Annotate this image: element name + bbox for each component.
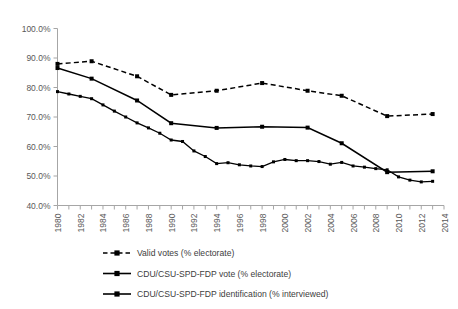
series-marker-2 xyxy=(340,161,343,164)
legend-marker-1 xyxy=(114,271,119,276)
legend-marker-2 xyxy=(114,291,119,296)
series-marker-2 xyxy=(329,163,332,166)
series-marker-2 xyxy=(181,140,184,143)
x-tick-label: 1982 xyxy=(76,213,86,232)
legend-label-2: CDU/CSU-SPD-FDP identification (% interv… xyxy=(137,289,328,299)
series-marker-0 xyxy=(215,89,219,93)
series-marker-2 xyxy=(397,175,400,178)
series-marker-2 xyxy=(113,110,116,113)
series-marker-2 xyxy=(227,161,230,164)
series-marker-0 xyxy=(56,62,60,66)
series-marker-2 xyxy=(386,168,389,171)
x-tick-label: 1992 xyxy=(189,213,199,232)
series-marker-2 xyxy=(158,132,161,135)
x-tick-label: 1988 xyxy=(144,213,154,232)
series-marker-2 xyxy=(67,92,70,95)
x-tick-label: 1980 xyxy=(53,213,63,232)
series-marker-2 xyxy=(249,164,252,167)
series-marker-2 xyxy=(295,159,298,162)
y-tick-label: 50.0% xyxy=(26,171,51,181)
y-tick-label: 60.0% xyxy=(26,142,51,152)
series-marker-0 xyxy=(385,114,389,118)
series-marker-2 xyxy=(420,180,423,183)
x-tick-label: 1986 xyxy=(121,213,131,232)
chart-canvas: 40.0%50.0%60.0%70.0%80.0%90.0%100.0%1980… xyxy=(0,0,458,309)
series-marker-2 xyxy=(363,166,366,169)
line-chart: 40.0%50.0%60.0%70.0%80.0%90.0%100.0%1980… xyxy=(0,0,458,309)
x-tick-label: 2002 xyxy=(303,213,313,232)
series-marker-2 xyxy=(317,160,320,163)
series-marker-2 xyxy=(408,179,411,182)
series-marker-2 xyxy=(283,158,286,161)
y-tick-label: 40.0% xyxy=(26,201,51,211)
x-tick-label: 2012 xyxy=(417,213,427,232)
series-marker-0 xyxy=(260,81,264,85)
y-tick-label: 70.0% xyxy=(26,112,51,122)
legend-marker-0 xyxy=(114,250,119,255)
x-tick-label: 1996 xyxy=(235,213,245,232)
x-tick-label: 1984 xyxy=(98,213,108,232)
series-marker-2 xyxy=(306,159,309,162)
series-marker-2 xyxy=(238,163,241,166)
series-marker-2 xyxy=(147,126,150,129)
series-marker-2 xyxy=(170,139,173,142)
series-marker-2 xyxy=(272,160,275,163)
series-marker-1 xyxy=(306,126,310,130)
series-marker-2 xyxy=(374,167,377,170)
series-marker-2 xyxy=(204,155,207,158)
legend-label-0: Valid votes (% electorate) xyxy=(137,248,234,258)
series-marker-2 xyxy=(192,149,195,152)
series-marker-2 xyxy=(124,116,127,119)
series-marker-0 xyxy=(306,89,310,93)
y-tick-label: 100.0% xyxy=(22,24,51,34)
x-tick-label: 1998 xyxy=(258,213,268,232)
series-marker-1 xyxy=(340,141,344,145)
series-marker-1 xyxy=(431,169,435,173)
series-marker-0 xyxy=(135,74,139,78)
series-marker-1 xyxy=(215,126,219,130)
x-tick-label: 1994 xyxy=(212,213,222,232)
series-marker-0 xyxy=(169,93,173,97)
x-tick-label: 2004 xyxy=(326,213,336,232)
series-marker-2 xyxy=(352,164,355,167)
x-tick-label: 2006 xyxy=(349,213,359,232)
x-tick-label: 2000 xyxy=(280,213,290,232)
y-tick-label: 80.0% xyxy=(26,83,51,93)
x-tick-label: 2008 xyxy=(371,213,381,232)
series-marker-0 xyxy=(340,94,344,98)
series-marker-2 xyxy=(56,90,59,93)
series-marker-1 xyxy=(56,66,60,70)
x-tick-label: 2014 xyxy=(440,213,450,232)
y-tick-label: 90.0% xyxy=(26,53,51,63)
series-marker-1 xyxy=(90,77,94,81)
legend-label-1: CDU/CSU-SPD-FDP vote (% electorate) xyxy=(137,269,291,279)
x-tick-label: 2010 xyxy=(394,213,404,232)
x-tick-label: 1990 xyxy=(167,213,177,232)
series-marker-1 xyxy=(135,98,139,102)
series-marker-2 xyxy=(101,103,104,106)
series-marker-0 xyxy=(90,59,94,63)
series-marker-2 xyxy=(215,162,218,165)
series-marker-1 xyxy=(260,125,264,129)
series-marker-0 xyxy=(431,112,435,116)
series-marker-2 xyxy=(136,121,139,124)
series-line-1 xyxy=(58,68,433,172)
series-marker-2 xyxy=(261,165,264,168)
series-marker-2 xyxy=(431,180,434,183)
series-marker-2 xyxy=(79,95,82,98)
series-marker-2 xyxy=(90,97,93,100)
series-marker-1 xyxy=(169,121,173,125)
